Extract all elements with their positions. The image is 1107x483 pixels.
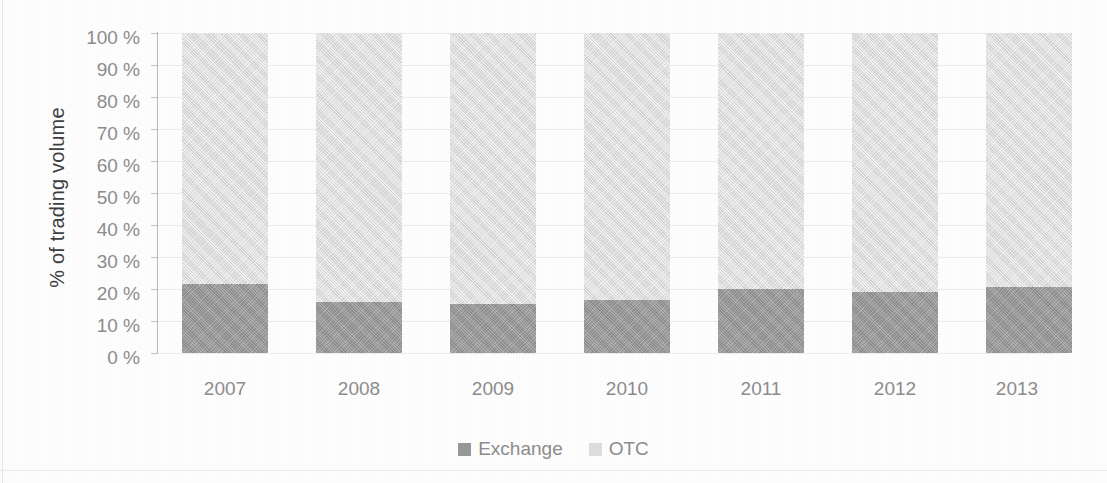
- bar-segment-exchange-2008[interactable]: [316, 302, 402, 353]
- bar-2007[interactable]: [182, 33, 268, 353]
- bar-segment-otc-2012[interactable]: [852, 33, 938, 292]
- bar-2008[interactable]: [316, 33, 402, 353]
- y-tick-mark-50: [151, 193, 157, 194]
- y-tick-mark-60: [151, 161, 157, 162]
- bar-segment-otc-2013[interactable]: [986, 33, 1072, 287]
- bar-segment-otc-2007[interactable]: [182, 33, 268, 284]
- gridline-0: [158, 353, 1060, 354]
- y-axis-title: % of trading volume: [46, 78, 69, 318]
- y-tick-label-100: 100 %: [72, 28, 140, 47]
- y-tick-label-50: 50 %: [72, 188, 140, 207]
- y-tick-mark-90: [151, 65, 157, 66]
- legend-label-otc: OTC: [609, 438, 649, 460]
- bar-segment-otc-2009[interactable]: [450, 33, 536, 304]
- y-tick-mark-40: [151, 225, 157, 226]
- x-tick-label-2010: 2010: [567, 378, 687, 400]
- y-tick-label-10: 10 %: [72, 316, 140, 335]
- bar-segment-exchange-2010[interactable]: [584, 300, 670, 353]
- y-tick-label-70: 70 %: [72, 124, 140, 143]
- bar-segment-exchange-2012[interactable]: [852, 292, 938, 353]
- y-axis-tick-labels: 100 % 90 % 80 % 70 % 60 % 50 % 40 % 30 %…: [72, 0, 140, 483]
- bar-2013[interactable]: [986, 33, 1072, 353]
- legend-swatch-icon-otc: [589, 443, 602, 456]
- x-tick-label-2013: 2013: [957, 378, 1077, 400]
- bar-2010[interactable]: [584, 33, 670, 353]
- y-tick-label-80: 80 %: [72, 92, 140, 111]
- x-tick-label-2011: 2011: [701, 378, 821, 400]
- y-tick-mark-20: [151, 289, 157, 290]
- y-tick-label-30: 30 %: [72, 252, 140, 271]
- y-tick-mark-0: [151, 353, 157, 354]
- x-tick-label-2007: 2007: [165, 378, 285, 400]
- y-tick-mark-80: [151, 97, 157, 98]
- x-tick-label-2009: 2009: [433, 378, 553, 400]
- chart-legend: Exchange OTC: [0, 438, 1107, 460]
- bar-2009[interactable]: [450, 33, 536, 353]
- legend-item-exchange[interactable]: Exchange: [458, 438, 563, 460]
- bar-segment-exchange-2013[interactable]: [986, 287, 1072, 353]
- bar-segment-exchange-2007[interactable]: [182, 284, 268, 353]
- bar-segment-exchange-2011[interactable]: [718, 289, 804, 353]
- y-tick-mark-70: [151, 129, 157, 130]
- page-border-left: [2, 0, 3, 483]
- y-tick-label-60: 60 %: [72, 156, 140, 175]
- bar-segment-exchange-2009[interactable]: [450, 304, 536, 353]
- y-tick-label-0: 0 %: [72, 348, 140, 367]
- bar-segment-otc-2010[interactable]: [584, 33, 670, 300]
- legend-item-otc[interactable]: OTC: [589, 438, 649, 460]
- x-tick-label-2008: 2008: [299, 378, 419, 400]
- y-tick-label-40: 40 %: [72, 220, 140, 239]
- x-tick-label-2012: 2012: [835, 378, 955, 400]
- page-border-bottom: [0, 470, 1107, 471]
- legend-label-exchange: Exchange: [478, 438, 563, 460]
- y-tick-mark-30: [151, 257, 157, 258]
- y-tick-mark-100: [151, 33, 157, 34]
- y-tick-label-20: 20 %: [72, 284, 140, 303]
- bar-segment-otc-2011[interactable]: [718, 33, 804, 289]
- bar-2011[interactable]: [718, 33, 804, 353]
- bar-2012[interactable]: [852, 33, 938, 353]
- y-tick-label-90: 90 %: [72, 60, 140, 79]
- y-tick-mark-10: [151, 321, 157, 322]
- plot-area: [158, 33, 1060, 353]
- bar-segment-otc-2008[interactable]: [316, 33, 402, 302]
- chart-page: % of trading volume 100 % 90 % 80 % 70 %…: [0, 0, 1107, 483]
- legend-swatch-icon-exchange: [458, 443, 471, 456]
